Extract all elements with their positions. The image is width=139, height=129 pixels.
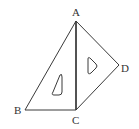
- label-a: A: [72, 6, 80, 18]
- label-c: C: [72, 114, 79, 126]
- right-set-square-hole: [88, 58, 97, 74]
- left-set-square-hole: [52, 74, 62, 95]
- label-b: B: [14, 104, 21, 116]
- label-d: D: [121, 62, 129, 74]
- triangle-acd: [76, 21, 119, 110]
- geometry-diagram: A B C D: [0, 0, 139, 129]
- triangle-abc: [25, 21, 76, 110]
